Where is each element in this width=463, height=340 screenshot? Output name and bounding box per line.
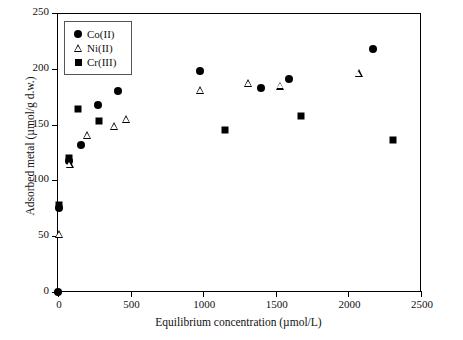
y-axis-tick: 200 [52, 69, 58, 70]
triangle-marker-icon [122, 115, 130, 123]
legend-marker [71, 30, 85, 38]
legend-marker [71, 44, 85, 52]
x-axis-tick-label: 1500 [266, 299, 288, 310]
data-point [114, 87, 122, 95]
data-point [285, 75, 293, 83]
data-point [196, 86, 204, 94]
plot-frame-top-border [57, 13, 420, 14]
x-axis-tick: 1000 [203, 291, 204, 297]
x-axis-tick: 2000 [348, 291, 349, 297]
scatter-chart-figure: 050100150200250 05001000150020002500 Equ… [0, 0, 463, 340]
square-marker-icon [96, 118, 103, 125]
data-point [66, 155, 73, 162]
data-point [96, 118, 103, 125]
data-point [56, 201, 63, 208]
x-axis-tick: 1500 [276, 291, 277, 297]
triangle-marker-icon [196, 86, 204, 94]
chart-legend: Co(II)Ni(II)Cr(III) [64, 21, 132, 75]
x-axis-tick-label: 2000 [338, 299, 360, 310]
legend-label: Ni(II) [87, 43, 113, 54]
legend-item: Ni(II) [71, 41, 126, 55]
circle-marker-icon [77, 141, 85, 149]
y-axis-tick: 100 [52, 180, 58, 181]
data-point [244, 79, 252, 87]
data-point [110, 122, 118, 130]
data-point [122, 115, 130, 123]
legend-label: Co(II) [87, 29, 115, 40]
x-axis-tick: 2500 [421, 291, 422, 297]
triangle-marker-icon [83, 131, 91, 139]
legend-label: Cr(III) [87, 57, 116, 68]
x-axis-tick: 500 [131, 291, 132, 297]
data-point [221, 127, 228, 134]
circle-marker-icon [369, 45, 377, 53]
square-marker-icon [66, 155, 73, 162]
triangle-marker-icon [74, 44, 82, 52]
circle-marker-icon [114, 87, 122, 95]
circle-marker-icon [74, 30, 82, 38]
y-axis-label: Adsorbed metal (µmol/g d.w.) [24, 6, 36, 286]
y-axis-tick-label: 0 [15, 285, 49, 296]
square-marker-icon [390, 137, 397, 144]
data-point [75, 105, 82, 112]
triangle-marker-icon [110, 122, 118, 130]
x-axis-label: Equilibrium concentration (µmol/L) [57, 316, 420, 328]
square-marker-icon [75, 59, 82, 66]
circle-marker-icon [196, 67, 204, 75]
square-marker-icon [221, 127, 228, 134]
data-point [77, 141, 85, 149]
data-point [94, 101, 102, 109]
data-point [55, 230, 63, 238]
square-marker-icon [75, 105, 82, 112]
triangle-marker-icon [244, 79, 252, 87]
data-point [83, 131, 91, 139]
y-axis-tick: 150 [52, 125, 58, 126]
data-point [298, 112, 305, 119]
data-point [355, 69, 363, 77]
circle-marker-icon [54, 288, 62, 296]
triangle-marker-icon [55, 230, 63, 238]
data-point [196, 67, 204, 75]
data-point [257, 84, 265, 92]
triangle-marker-icon [276, 82, 284, 90]
data-point [54, 288, 62, 296]
data-point [390, 137, 397, 144]
data-point [276, 82, 284, 90]
triangle-marker-icon [355, 69, 363, 77]
legend-marker [71, 59, 85, 66]
legend-item: Co(II) [71, 27, 126, 41]
circle-marker-icon [94, 101, 102, 109]
circle-marker-icon [285, 75, 293, 83]
x-axis-tick-label: 1000 [193, 299, 215, 310]
circle-marker-icon [257, 84, 265, 92]
x-axis-tick-label: 0 [56, 299, 62, 310]
square-marker-icon [298, 112, 305, 119]
x-axis-tick-label: 500 [123, 299, 140, 310]
square-marker-icon [56, 201, 63, 208]
legend-item: Cr(III) [71, 55, 126, 69]
data-point [369, 45, 377, 53]
plot-frame-right-border [420, 13, 421, 292]
x-axis-tick-label: 2500 [411, 299, 433, 310]
